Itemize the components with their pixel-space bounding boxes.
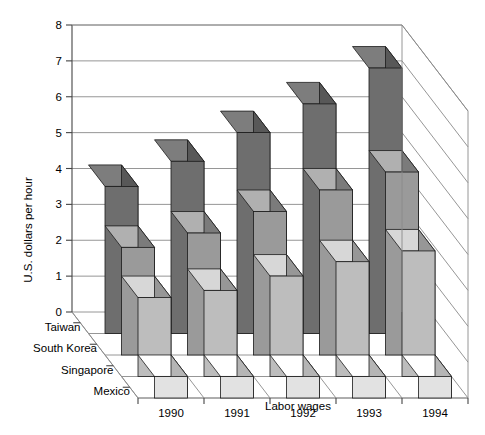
y-tick-label: 6 [56,91,62,103]
series-label-singapore: Singapore [61,364,113,376]
bar-front-face [221,376,254,398]
x-tick-label-1993: 1993 [356,407,382,419]
bar-front-face [287,376,320,398]
y-tick-label: 2 [56,234,62,246]
y-tick-label: 0 [56,306,62,318]
x-tick-label-1994: 1994 [422,407,448,419]
y-axis-title: U.S. dollars per hour [22,177,34,283]
y-tick-label: 7 [56,55,62,67]
bar-chart-3d: 012345678 TaiwanSouth KoreaSingaporeMexi… [0,0,485,435]
series-label-mexico: Mexico [94,385,130,397]
y-tick-label: 4 [56,163,63,175]
bar-front-face [353,376,386,398]
x-tick-label-1991: 1991 [224,407,250,419]
y-tick-label: 1 [56,270,62,282]
y-tick-label: 3 [56,198,62,210]
y-tick-label: 5 [56,127,62,139]
bar-front-face [155,376,188,398]
chart-container: 012345678 TaiwanSouth KoreaSingaporeMexi… [0,0,485,435]
bar-front-face [419,376,452,398]
y-tick-label: 8 [56,19,62,31]
series-label-taiwan: Taiwan [45,321,81,333]
x-axis-title: Labor wages [265,400,331,412]
x-tick-label-1990: 1990 [158,407,184,419]
series-label-south-korea: South Korea [33,342,98,354]
